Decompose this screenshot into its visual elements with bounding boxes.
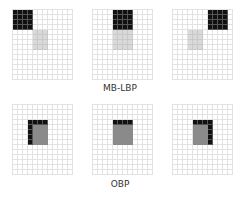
obp-grid-2 [92,104,153,175]
obp-caption: OBP [0,179,240,189]
grid-cell [228,75,233,80]
obp-grid-3 [172,104,233,175]
mb-lbp-grid-1 [12,9,73,80]
grid-cell [148,170,153,175]
grid-cell [68,170,73,175]
grid-cell [68,75,73,80]
grid-cell [148,75,153,80]
grid-cell [228,170,233,175]
obp-grid-1 [12,104,73,175]
mb-lbp-caption: MB-LBP [0,83,240,93]
mb-lbp-grid-3 [172,9,233,80]
mb-lbp-grid-2 [92,9,153,80]
